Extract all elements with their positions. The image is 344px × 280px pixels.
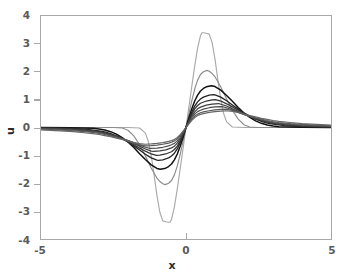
x-tick-mark: [186, 233, 187, 240]
y-tick-label: 1: [4, 94, 30, 105]
y-tick-mark: [34, 184, 41, 185]
y-tick-mark: [34, 128, 41, 129]
y-tick-mark: [34, 212, 41, 213]
y-tick-label: 3: [4, 38, 30, 49]
x-tick-label: -5: [26, 245, 54, 256]
figure: -4-3-2-101234 -505 u x: [0, 0, 344, 280]
y-axis-label: u: [4, 124, 18, 138]
y-tick-label: -2: [4, 178, 30, 189]
curves-group: [41, 16, 331, 239]
plot-area: [40, 15, 332, 240]
y-tick-label: -4: [4, 235, 30, 246]
x-tick-label: 5: [318, 245, 344, 256]
y-tick-label: -3: [4, 206, 30, 217]
x-tick-label: 0: [172, 245, 200, 256]
y-tick-label: 4: [4, 10, 30, 21]
y-tick-mark: [34, 43, 41, 44]
y-tick-label: -1: [4, 150, 30, 161]
y-tick-mark: [34, 99, 41, 100]
x-axis-label: x: [0, 260, 344, 271]
y-axis-ticks: -4-3-2-101234: [0, 0, 40, 280]
y-tick-label: 2: [4, 66, 30, 77]
y-tick-mark: [34, 156, 41, 157]
y-tick-mark: [34, 71, 41, 72]
